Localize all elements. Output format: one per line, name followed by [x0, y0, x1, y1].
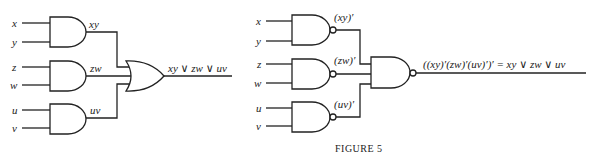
label-xy-prime: (xy)′ — [334, 11, 354, 24]
nand-bubble-3 — [330, 114, 336, 120]
nand-gate-2 — [292, 59, 330, 89]
label-left-output: xy ∨ zw ∨ uv — [167, 62, 227, 74]
nand-gate-3 — [292, 102, 330, 132]
label-y-right: y — [255, 35, 261, 47]
label-xy: xy — [88, 18, 99, 30]
label-uv-prime: (uv)′ — [334, 98, 355, 111]
label-z: z — [11, 61, 17, 73]
and-gate-1 — [50, 17, 86, 47]
and-gate-3 — [50, 104, 86, 134]
label-uv: uv — [90, 104, 101, 116]
and-gate-2 — [50, 61, 86, 91]
nand-bubble-1 — [330, 27, 336, 33]
label-u: u — [12, 104, 18, 116]
right-circuit: x y z w u v (xy)′ (zw)′ (uv)′ ((xy)′(zw)… — [254, 11, 586, 132]
nand-bubble-final — [410, 70, 416, 76]
label-w: w — [10, 79, 18, 91]
label-y: y — [11, 36, 17, 48]
left-circuit: x y z w u v xy zw uv xy ∨ zw ∨ uv — [10, 17, 232, 134]
label-zw: zw — [89, 62, 102, 74]
nand-gate-final — [371, 57, 410, 88]
figure-caption: FIGURE 5 — [335, 143, 383, 154]
nand-bubble-2 — [330, 71, 336, 77]
label-x: x — [11, 17, 17, 29]
label-z-right: z — [256, 58, 262, 70]
or-gate — [126, 61, 164, 91]
label-v: v — [12, 122, 17, 134]
label-v-right: v — [256, 120, 261, 132]
label-w-right: w — [254, 77, 262, 89]
logic-circuit-figure: x y z w u v xy zw uv xy ∨ zw ∨ uv — [0, 0, 600, 156]
label-zw-prime: (zw)′ — [334, 54, 356, 67]
nand-gate-1 — [292, 15, 330, 45]
label-u-right: u — [256, 102, 262, 114]
label-right-output: ((xy)′(zw)′(uv)′)′ = xy ∨ zw ∨ uv — [423, 58, 566, 71]
label-x-right: x — [255, 15, 261, 27]
